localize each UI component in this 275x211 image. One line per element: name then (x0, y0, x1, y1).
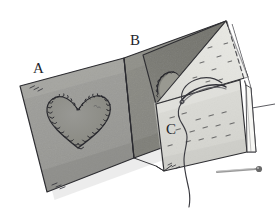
illustration-canvas: A B C (0, 0, 275, 211)
panel-label-b: B (130, 33, 140, 48)
pin-head-icon (256, 166, 262, 172)
straight-pin (217, 166, 262, 172)
panel-label-a: A (33, 61, 44, 76)
panel-label-c: C (166, 122, 176, 137)
edge-guide-line (252, 104, 275, 108)
